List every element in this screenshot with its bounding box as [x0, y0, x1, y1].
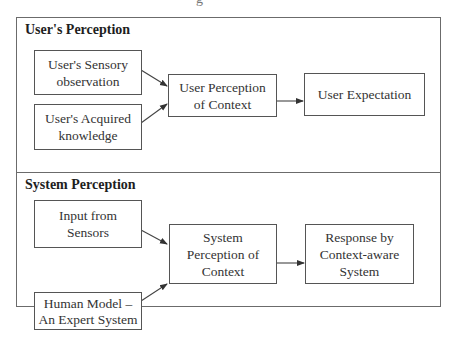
box-label: Human Model – An Expert System	[36, 296, 140, 328]
box-label: Input from Sensors	[48, 207, 128, 241]
box-user-expectation: User Expectation	[304, 73, 425, 116]
box-system-perception-of-context: System Perception of Context	[169, 224, 277, 284]
box-input-from-sensors: Input from Sensors	[34, 200, 142, 248]
box-acquired-knowledge: User's Acquired knowledge	[34, 104, 142, 150]
arrow-human-model-to-system-perception	[141, 284, 167, 301]
box-label: System Perception of Context	[183, 229, 263, 280]
box-label: User's Sensory observation	[44, 56, 132, 90]
arrow-sensory-to-user-perception	[141, 70, 167, 86]
arrow-sensors-to-system-perception	[141, 230, 167, 244]
box-label: User Perception of Context	[173, 79, 273, 113]
arrow-acquired-to-user-perception	[141, 104, 167, 123]
box-user-perception-of-context: User Perception of Context	[168, 74, 277, 117]
box-label: User Expectation	[318, 86, 411, 103]
box-label: User's Acquired knowledge	[42, 110, 134, 144]
box-response-by-context-aware-system: Response by Context-aware System	[305, 224, 414, 284]
box-human-model-expert-system: Human Model – An Expert System	[34, 292, 142, 330]
box-label: Response by Context-aware System	[315, 229, 405, 280]
box-sensory-observation: User's Sensory observation	[34, 50, 142, 95]
